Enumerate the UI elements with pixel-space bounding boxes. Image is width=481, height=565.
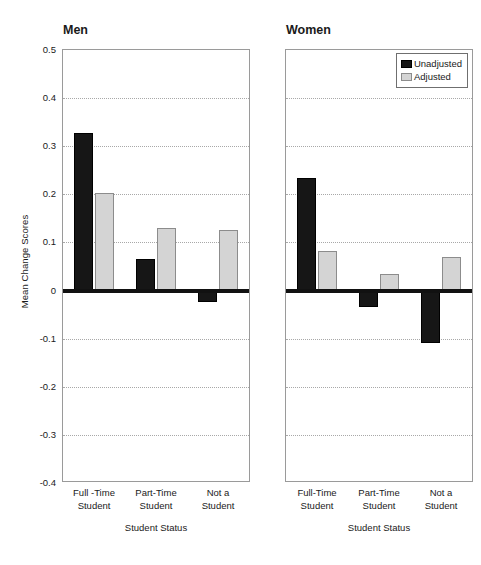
legend-label-adjusted: Adjusted: [414, 70, 451, 83]
legend-label-unadjusted: Unadjusted: [414, 57, 462, 70]
y-axis-tick-label: 0.1: [22, 236, 56, 247]
plot-area-men: [63, 50, 249, 481]
x-axis-tick-label: Not aStudent: [202, 487, 235, 512]
bar-unadjusted: [359, 291, 378, 308]
x-axis-tick-label-line: Part-Time: [358, 487, 399, 500]
bar-adjusted: [318, 251, 337, 290]
x-axis-tick-label-line: Student: [73, 500, 115, 513]
y-axis-tick-label: -0.4: [22, 477, 56, 488]
plot-area-women: [286, 50, 472, 481]
gridline: [286, 98, 472, 99]
bar-adjusted: [95, 193, 114, 291]
legend-item-adjusted: Adjusted: [401, 70, 462, 83]
bar-unadjusted: [421, 291, 440, 344]
gridline: [286, 146, 472, 147]
gridline: [63, 339, 249, 340]
x-axis-label-women: Student Status: [286, 522, 472, 533]
x-axis-tick-label: Full-TimeStudent: [297, 487, 336, 512]
x-axis-tick-label-line: Student: [358, 500, 399, 513]
panel-title-men: Men: [63, 23, 88, 37]
y-axis-tick-label: 0.2: [22, 188, 56, 199]
x-axis-tick-label-line: Student: [135, 500, 176, 513]
x-axis-tick-label: Part-TimeStudent: [135, 487, 176, 512]
y-axis-tick-label: -0.1: [22, 332, 56, 343]
x-axis-label-men: Student Status: [63, 522, 249, 533]
x-axis-tick-label-line: Student: [297, 500, 336, 513]
panel-title-women: Women: [286, 23, 331, 37]
x-axis-tick-label-line: Full -Time: [73, 487, 115, 500]
panel-women: Women Unadjusted Adjusted Full-TimeStude…: [285, 49, 473, 482]
x-axis-tick-label-line: Not a: [202, 487, 235, 500]
y-axis-tick-labels: 0.50.40.30.20.10-0.1-0.2-0.3-0.4: [22, 0, 56, 565]
y-axis-tick-label: 0.4: [22, 92, 56, 103]
y-axis-tick-label: 0.5: [22, 44, 56, 55]
bar-adjusted: [442, 257, 461, 290]
x-axis-tick-label-line: Student: [202, 500, 235, 513]
y-axis-tick-label: -0.2: [22, 380, 56, 391]
y-axis-tick-label: 0.3: [22, 140, 56, 151]
bar-unadjusted: [74, 133, 93, 291]
zero-baseline: [63, 289, 249, 293]
x-axis-tick-label: Full -TimeStudent: [73, 487, 115, 512]
x-axis-tick-label: Not aStudent: [425, 487, 458, 512]
legend-swatch-unadjusted-icon: [401, 60, 412, 68]
x-axis-tick-labels-women: Full-TimeStudentPart-TimeStudentNot aStu…: [286, 487, 472, 527]
x-axis-tick-label: Part-TimeStudent: [358, 487, 399, 512]
gridline: [286, 339, 472, 340]
x-axis-tick-labels-men: Full -TimeStudentPart-TimeStudentNot aSt…: [63, 487, 249, 527]
gridline: [286, 387, 472, 388]
gridline: [63, 387, 249, 388]
bar-adjusted: [157, 228, 176, 291]
gridline: [63, 98, 249, 99]
chart-legend: Unadjusted Adjusted: [396, 53, 468, 88]
x-axis-tick-label-line: Full-Time: [297, 487, 336, 500]
x-axis-tick-label-line: Part-Time: [135, 487, 176, 500]
x-axis-tick-label-line: Student: [425, 500, 458, 513]
bar-unadjusted: [136, 259, 155, 290]
gridline: [286, 435, 472, 436]
bar-adjusted: [219, 230, 238, 290]
panel-men: Men Full -TimeStudentPart-TimeStudentNot…: [62, 49, 250, 482]
y-axis-tick-label: 0: [22, 284, 56, 295]
legend-swatch-adjusted-icon: [401, 73, 412, 81]
zero-baseline: [286, 289, 472, 293]
x-axis-tick-label-line: Not a: [425, 487, 458, 500]
chart-figure: Mean Change Scores 0.50.40.30.20.10-0.1-…: [0, 0, 481, 565]
gridline: [63, 435, 249, 436]
bar-unadjusted: [297, 178, 316, 290]
y-axis-tick-label: -0.3: [22, 428, 56, 439]
legend-item-unadjusted: Unadjusted: [401, 57, 462, 70]
